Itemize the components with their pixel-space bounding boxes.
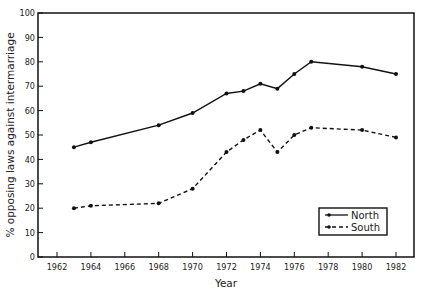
data-point-south xyxy=(275,150,279,154)
data-point-north xyxy=(241,89,245,93)
y-tick-label: 0 xyxy=(30,252,35,262)
x-tick-label: 1974 xyxy=(250,262,271,272)
legend-north-label: North xyxy=(351,210,379,221)
data-point-north xyxy=(394,72,398,76)
series-lines xyxy=(72,60,398,210)
data-point-south xyxy=(225,150,229,154)
data-point-north xyxy=(360,65,364,69)
legend: North South xyxy=(319,208,387,235)
data-point-south xyxy=(360,128,364,132)
legend-south-marker xyxy=(327,225,331,229)
y-tick-label: 20 xyxy=(25,203,35,213)
x-tick-label: 1970 xyxy=(182,262,203,272)
data-point-north xyxy=(72,145,76,149)
series-north-line xyxy=(74,62,396,147)
y-tick-label: 30 xyxy=(25,179,35,189)
data-point-north xyxy=(225,92,229,96)
y-axis-ticks: 0102030405060708090100 xyxy=(20,8,43,262)
data-point-north xyxy=(191,111,195,115)
x-tick-label: 1980 xyxy=(352,262,373,272)
y-tick-label: 10 xyxy=(25,228,35,238)
data-point-north xyxy=(157,123,161,127)
series-south-line xyxy=(74,128,396,209)
line-chart: 0102030405060708090100 19621964196619681… xyxy=(0,0,423,294)
data-point-south xyxy=(89,204,93,208)
y-tick-label: 100 xyxy=(20,8,35,18)
y-axis-title: % opposing laws against intermarriage xyxy=(4,32,16,237)
data-point-south xyxy=(241,138,245,142)
y-tick-label: 50 xyxy=(25,130,35,140)
y-tick-label: 60 xyxy=(25,106,35,116)
data-point-south xyxy=(394,135,398,139)
x-tick-label: 1962 xyxy=(47,262,68,272)
data-point-north xyxy=(309,60,313,64)
x-tick-label: 1964 xyxy=(81,262,102,272)
x-tick-label: 1966 xyxy=(114,262,135,272)
x-tick-label: 1972 xyxy=(216,262,237,272)
data-point-south xyxy=(292,133,296,137)
y-tick-label: 80 xyxy=(25,57,35,67)
x-tick-label: 1968 xyxy=(148,262,169,272)
data-point-north xyxy=(258,82,262,86)
x-tick-label: 1982 xyxy=(386,262,407,272)
data-point-south xyxy=(258,128,262,132)
data-point-south xyxy=(191,187,195,191)
legend-south-label: South xyxy=(351,222,380,233)
data-point-north xyxy=(89,140,93,144)
y-tick-label: 90 xyxy=(25,33,35,43)
x-axis-ticks: 1962196419661968197019721974197619781980… xyxy=(47,252,407,272)
data-point-north xyxy=(275,87,279,91)
y-tick-label: 70 xyxy=(25,81,35,91)
y-tick-label: 40 xyxy=(25,155,35,165)
data-point-south xyxy=(309,126,313,130)
x-tick-label: 1976 xyxy=(284,262,305,272)
x-axis-title: Year xyxy=(214,277,238,289)
data-point-north xyxy=(292,72,296,76)
x-tick-label: 1978 xyxy=(318,262,339,272)
legend-north-marker xyxy=(327,213,331,217)
data-point-south xyxy=(157,201,161,205)
data-point-south xyxy=(72,206,76,210)
